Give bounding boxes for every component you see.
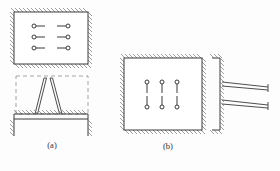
cantilever-wall-hatching bbox=[210, 54, 224, 134]
enclosure-a-border bbox=[14, 12, 88, 64]
engineering-figure: (a) (b) bbox=[0, 0, 280, 171]
tapered-cantilever-bars bbox=[222, 82, 268, 110]
panel-a-caption: (a) bbox=[34, 140, 70, 150]
cantilever-bar bbox=[222, 100, 268, 110]
enclosure-b-border bbox=[124, 58, 202, 130]
support-beam-hatching bbox=[14, 110, 86, 114]
panel-a bbox=[10, 8, 92, 136]
panel-b-caption: (b) bbox=[150, 141, 186, 151]
a-frame-brace bbox=[35, 78, 62, 114]
cantilever-wall bbox=[212, 58, 220, 130]
panel-b bbox=[120, 54, 268, 134]
dashed-reference-frame bbox=[16, 76, 88, 114]
end-post-hatching bbox=[10, 120, 92, 136]
vertical-end-posts bbox=[14, 114, 88, 136]
hatched-support-beam bbox=[14, 114, 88, 119]
cantilever-bar bbox=[222, 82, 268, 92]
